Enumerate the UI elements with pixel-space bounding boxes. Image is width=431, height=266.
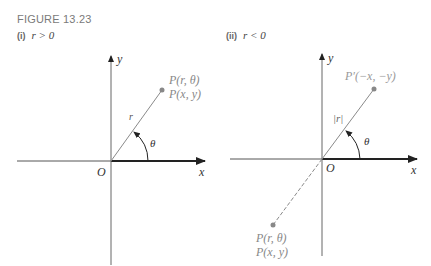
angle-arc	[134, 132, 148, 161]
panel-i-graph: y x O r θ P(r, θ) P(x, y)	[17, 52, 205, 265]
point-p-prime	[372, 87, 377, 92]
panel-ii-graph: y x O |r| θ P′(−x, −y) P(r, θ) P(x, y)	[230, 51, 417, 259]
point-polar-label: P(r, θ)	[255, 231, 287, 245]
x-axis-label: x	[198, 165, 205, 179]
y-axis-label: y	[116, 52, 123, 66]
radius-label: |r|	[333, 112, 343, 124]
origin-label: O	[97, 165, 106, 179]
y-axis-label: y	[327, 51, 334, 65]
reflected-point-label: P′(−x, −y)	[344, 69, 396, 83]
x-axis-label: x	[410, 163, 417, 177]
polar-diagram: y x O r θ P(r, θ) P(x, y) y x O |r| θ P′…	[0, 0, 431, 266]
point-rect-label: P(x, y)	[255, 245, 288, 259]
angle-arc	[346, 131, 360, 159]
origin-label: O	[326, 161, 335, 175]
negative-radius-ray	[273, 159, 322, 225]
point-p	[271, 223, 276, 228]
angle-label: θ	[150, 137, 156, 149]
radius-label: r	[129, 111, 133, 122]
angle-label: θ	[364, 135, 370, 147]
point-polar-label: P(r, θ)	[168, 73, 200, 87]
point-p	[160, 88, 165, 93]
point-rect-label: P(x, y)	[168, 87, 201, 101]
radius-ray	[322, 89, 374, 159]
radius-ray	[111, 90, 162, 161]
